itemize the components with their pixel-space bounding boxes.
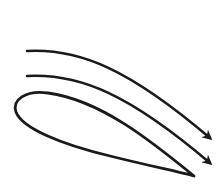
airfoil-diagram [0,0,223,195]
diagram-canvas [0,0,223,195]
